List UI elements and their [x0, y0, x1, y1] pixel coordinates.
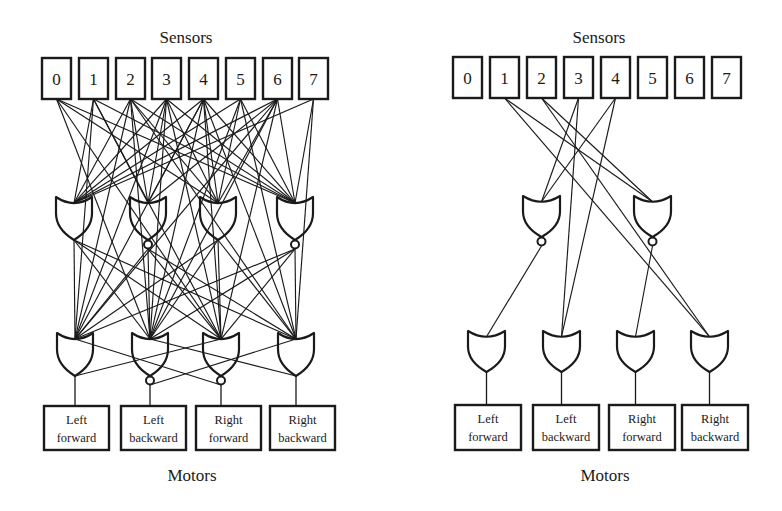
right-connection-wires — [487, 98, 710, 337]
wire-sensor-3-to-hidden-gate-0 — [74, 99, 167, 203]
right-sensor-row: 01234567 — [453, 57, 741, 98]
right-sensors-heading: Sensors — [573, 28, 626, 47]
left-motors-heading: Motors — [167, 466, 216, 485]
sensor-number: 1 — [500, 69, 509, 88]
sensor-box: 1 — [490, 57, 519, 98]
sensor-box: 4 — [601, 57, 630, 98]
output-logic-gate — [132, 333, 168, 385]
nor-gate-icon — [203, 333, 239, 376]
or-gate-icon — [56, 197, 92, 240]
wire-sensor-3-to-hidden-gate-0 — [542, 98, 579, 202]
left-connection-wires — [57, 99, 314, 385]
or-gate-icon — [617, 331, 654, 372]
motor-label-line2: backward — [691, 430, 740, 444]
nor-gate-icon — [634, 196, 671, 237]
sensor-number: 7 — [722, 69, 731, 88]
motor-label-line1: Right — [701, 412, 729, 426]
motor-label-line1: Left — [66, 413, 87, 427]
sensor-number: 2 — [537, 69, 546, 88]
or-gate-icon — [543, 331, 580, 372]
output-logic-gate — [691, 331, 728, 372]
negation-bubble-icon — [217, 377, 225, 385]
sensor-box: 0 — [42, 58, 71, 99]
negation-bubble-icon — [146, 377, 154, 385]
motor-label-line1: Left — [556, 412, 577, 426]
hidden-logic-gate — [130, 197, 166, 249]
hidden-logic-gate — [523, 196, 560, 246]
sensor-box: 4 — [189, 58, 218, 99]
sensor-number: 0 — [463, 69, 472, 88]
motor-label-line2: forward — [209, 431, 249, 445]
negation-bubble-icon — [291, 241, 299, 249]
right-hidden-gate-row — [523, 196, 671, 246]
motor-label-line1: Left — [478, 412, 499, 426]
output-logic-gate — [617, 331, 654, 372]
output-logic-gate — [278, 333, 314, 376]
motor-box: Rightbackward — [270, 406, 335, 450]
sensor-box: 3 — [564, 57, 593, 98]
sensor-box: 6 — [263, 58, 292, 99]
wire-hidden-gate-0-to-output-gate-3 — [74, 240, 296, 339]
wire-hidden-gate-0-to-output-gate-0 — [74, 240, 75, 339]
right-motors-heading: Motors — [580, 466, 629, 485]
sensor-box: 3 — [152, 58, 181, 99]
sensor-number: 3 — [574, 69, 583, 88]
wire-hidden-gate-2-to-output-gate-1 — [150, 240, 218, 339]
motor-box: Leftforward — [44, 406, 109, 450]
motor-box: Leftbackward — [533, 405, 599, 450]
wire-hidden-gate-3-to-output-gate-3 — [295, 249, 296, 339]
sensor-box: 7 — [712, 57, 741, 98]
sensor-number: 1 — [89, 70, 98, 89]
wire-sensor-6-to-output-gate-0 — [75, 99, 278, 339]
motor-box: Rightforward — [196, 406, 261, 450]
right-network-panel: Sensors 01234567 LeftforwardLeftbackward… — [453, 28, 748, 485]
sensor-number: 3 — [162, 70, 171, 89]
sensor-box: 5 — [638, 57, 667, 98]
sensor-box: 6 — [675, 57, 704, 98]
output-logic-gate — [543, 331, 580, 372]
or-gate-icon — [278, 333, 314, 376]
left-hidden-gate-row — [56, 197, 313, 249]
wire-sensor-2-to-output-gate-3 — [542, 98, 710, 337]
motor-label-line2: forward — [57, 431, 97, 445]
or-gate-icon — [691, 331, 728, 372]
sensor-box: 7 — [299, 58, 328, 99]
motor-label-line1: Right — [215, 413, 243, 427]
nor-gate-icon — [130, 197, 166, 240]
right-motor-row: LeftforwardLeftbackwardRightforwardRight… — [455, 372, 748, 450]
sensor-number: 4 — [199, 70, 208, 89]
left-network-panel: Sensors 01234567 LeftforwardLeftbackward… — [42, 28, 335, 485]
sensor-number: 6 — [685, 69, 694, 88]
output-logic-gate — [57, 333, 93, 376]
negation-bubble-icon — [538, 238, 546, 246]
output-logic-gate — [203, 333, 239, 385]
or-gate-icon — [468, 331, 505, 372]
negation-bubble-icon — [649, 238, 657, 246]
sensor-number: 6 — [273, 70, 282, 89]
nor-gate-icon — [523, 196, 560, 237]
sensor-box: 0 — [453, 57, 482, 98]
motor-box: Rightbackward — [682, 405, 748, 450]
motor-label-line1: Right — [628, 412, 656, 426]
motor-label-line2: forward — [622, 430, 662, 444]
motor-label-line2: backward — [278, 431, 327, 445]
sensor-number: 0 — [52, 70, 61, 89]
nor-gate-icon — [132, 333, 168, 376]
hidden-logic-gate — [56, 197, 92, 240]
sensor-number: 5 — [648, 69, 657, 88]
output-logic-gate — [468, 331, 505, 372]
motor-box: Leftbackward — [121, 406, 186, 450]
left-sensors-heading: Sensors — [160, 28, 213, 47]
or-gate-icon — [57, 333, 93, 376]
right-output-gate-row — [468, 331, 728, 372]
sensor-number: 5 — [236, 70, 245, 89]
sensor-number: 4 — [611, 69, 620, 88]
sensor-number: 7 — [309, 70, 318, 89]
nor-gate-icon — [277, 197, 313, 240]
sensor-box: 2 — [527, 57, 556, 98]
wire-hidden-gate-0-to-output-gate-0 — [487, 246, 542, 337]
left-motor-row: LeftforwardLeftbackwardRightforwardRight… — [44, 376, 335, 450]
sensor-motor-network-diagram: Sensors 01234567 LeftforwardLeftbackward… — [0, 0, 782, 511]
motor-label-line2: backward — [542, 430, 591, 444]
motor-box: Leftforward — [455, 405, 521, 450]
